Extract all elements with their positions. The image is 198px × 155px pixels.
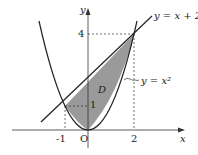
- label-pointer: [124, 78, 139, 80]
- x-tick-2: 2: [131, 133, 137, 144]
- parabola-label: y = x²: [140, 75, 171, 86]
- region-label: D: [97, 84, 106, 95]
- y-axis-label: y: [79, 4, 86, 15]
- region-d: [65, 34, 134, 130]
- y-tick-4: 4: [78, 28, 84, 39]
- diagram: y x O -1 2 1 4 y = x + 2 y = x² D: [0, 0, 198, 155]
- line-label: y = x + 2: [153, 10, 198, 21]
- y-tick-1: 1: [90, 99, 96, 110]
- x-axis-arrow-icon: [178, 128, 185, 133]
- origin-label: O: [80, 133, 88, 144]
- x-axis-label: x: [180, 133, 186, 144]
- y-axis-arrow-icon: [86, 8, 91, 15]
- plot-svg: y x O -1 2 1 4 y = x + 2 y = x² D: [0, 0, 198, 155]
- x-tick-neg1: -1: [56, 133, 66, 144]
